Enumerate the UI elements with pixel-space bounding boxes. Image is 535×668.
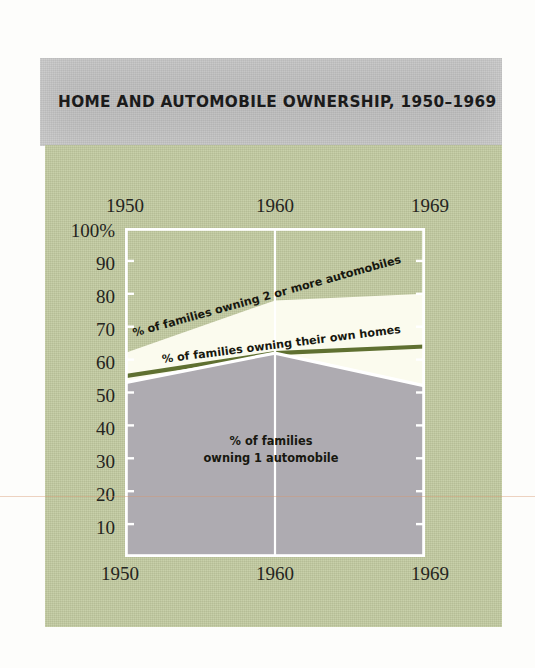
x-axis-bottom-tick-1960: 1960 bbox=[256, 563, 294, 585]
y-axis-tick-90: 90 bbox=[53, 253, 115, 275]
x-axis-bottom-tick-1950: 1950 bbox=[101, 563, 139, 585]
y-axis-tick-30: 30 bbox=[53, 451, 115, 473]
x-axis-bottom-tick-1969: 1969 bbox=[411, 563, 449, 585]
y-axis-tick-70: 70 bbox=[53, 319, 115, 341]
x-axis-top-tick-1969: 1969 bbox=[411, 195, 449, 217]
y-axis-tick-40: 40 bbox=[53, 418, 115, 440]
x-axis-top-tick-1960: 1960 bbox=[256, 195, 294, 217]
y-axis-tick-80: 80 bbox=[53, 286, 115, 308]
chart-page: HOME AND AUTOMOBILE OWNERSHIP, 1950–1969… bbox=[0, 0, 535, 668]
chart-svg bbox=[125, 228, 425, 557]
title-bar: HOME AND AUTOMOBILE OWNERSHIP, 1950–1969 bbox=[40, 58, 502, 146]
y-axis-tick-20: 20 bbox=[53, 484, 115, 506]
y-axis-tick-60: 60 bbox=[53, 352, 115, 374]
plot-area bbox=[125, 228, 425, 557]
x-axis-top-tick-1950: 1950 bbox=[106, 195, 144, 217]
y-axis-tick-100: 100% bbox=[53, 220, 115, 242]
y-axis-tick-10: 10 bbox=[53, 517, 115, 539]
y-axis-tick-50: 50 bbox=[53, 385, 115, 407]
page-title: HOME AND AUTOMOBILE OWNERSHIP, 1950–1969 bbox=[58, 93, 497, 111]
